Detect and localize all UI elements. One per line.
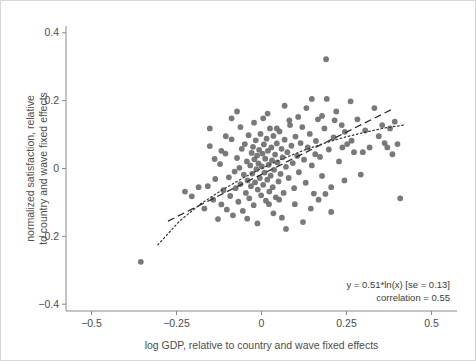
data-point [292, 201, 298, 207]
data-point [234, 109, 240, 115]
data-point [303, 105, 309, 111]
x-tick-label: −0.25 [163, 317, 190, 329]
data-point [371, 105, 377, 111]
data-point [207, 143, 213, 149]
data-point [290, 160, 296, 166]
data-point [351, 149, 357, 155]
y-tick-label: 0.4 [44, 26, 59, 38]
data-point [265, 111, 271, 117]
data-point [336, 158, 342, 164]
data-point [339, 122, 345, 128]
data-point [358, 172, 364, 178]
data-point [138, 259, 144, 265]
annotation-equation: y = 0.51*ln(x) [se = 0.13] [346, 279, 450, 290]
data-point [282, 103, 288, 109]
data-point [267, 126, 273, 132]
data-point [332, 117, 338, 123]
data-point [319, 113, 325, 119]
data-point [196, 184, 202, 190]
data-point [328, 209, 334, 215]
data-point [260, 115, 266, 121]
data-point [223, 133, 229, 139]
data-point [243, 190, 249, 196]
log-fit [158, 125, 404, 245]
linear-fit [168, 109, 392, 221]
data-point [253, 137, 259, 143]
data-point [278, 171, 284, 177]
data-point [276, 197, 282, 203]
data-point [384, 145, 390, 151]
data-point [333, 109, 339, 115]
data-point [286, 117, 292, 123]
data-point [255, 221, 261, 227]
data-point [284, 149, 290, 155]
data-point [254, 166, 260, 172]
data-point [295, 114, 301, 120]
data-point [238, 124, 244, 130]
data-point [217, 161, 223, 167]
data-point [291, 185, 297, 191]
data-point [367, 145, 373, 151]
data-point [303, 180, 309, 186]
data-point [324, 96, 330, 102]
data-point [316, 197, 322, 203]
data-point [224, 207, 230, 213]
data-point [246, 195, 252, 201]
data-point [323, 56, 329, 62]
data-point [212, 156, 218, 162]
data-point [266, 201, 272, 207]
data-point [348, 98, 354, 104]
data-point [379, 122, 385, 128]
y-tick-label: 0 [53, 162, 59, 174]
data-point [270, 184, 276, 190]
data-point [274, 126, 280, 132]
data-point [311, 191, 317, 197]
data-point [230, 212, 236, 218]
data-point [247, 163, 253, 169]
data-point [349, 138, 355, 144]
y-axis-title-line2: to country and wave fixed effects [37, 92, 49, 245]
data-point [218, 202, 224, 208]
data-point [296, 169, 302, 175]
y-axis-title-line1: normalized satisfaction, relative [24, 95, 36, 242]
data-point [251, 202, 257, 208]
x-axis-title: log GDP, relative to country and wave fi… [145, 339, 379, 351]
data-point [326, 147, 332, 153]
data-point [281, 190, 287, 196]
data-point [268, 173, 274, 179]
data-point [205, 183, 211, 189]
data-point [390, 151, 396, 157]
data-point [300, 219, 306, 225]
data-point [255, 187, 261, 193]
data-point [319, 173, 325, 179]
data-point [342, 177, 348, 183]
x-tick-label: 0.5 [424, 317, 439, 329]
x-tick-label: 0 [259, 317, 265, 329]
y-tick-label: −0.4 [38, 298, 59, 310]
data-point [189, 193, 195, 199]
data-point [289, 143, 295, 149]
data-point [268, 145, 274, 151]
data-point [182, 189, 188, 195]
data-point [241, 172, 247, 178]
data-point [261, 142, 267, 148]
annotation-correlation: correlation = 0.55 [376, 292, 450, 303]
data-point [234, 155, 240, 161]
data-point [271, 133, 277, 139]
data-point [309, 163, 315, 169]
data-point [376, 133, 382, 139]
data-point [293, 134, 299, 140]
data-point [229, 115, 235, 121]
data-point [283, 226, 289, 232]
data-point [207, 126, 213, 132]
data-point [301, 157, 307, 163]
data-point [232, 169, 238, 175]
data-point [254, 153, 260, 159]
data-point [246, 132, 252, 138]
data-point [397, 195, 403, 201]
data-point [313, 138, 319, 144]
data-point [354, 116, 360, 122]
data-point [312, 151, 318, 157]
data-point [250, 144, 256, 150]
data-point [252, 180, 258, 186]
